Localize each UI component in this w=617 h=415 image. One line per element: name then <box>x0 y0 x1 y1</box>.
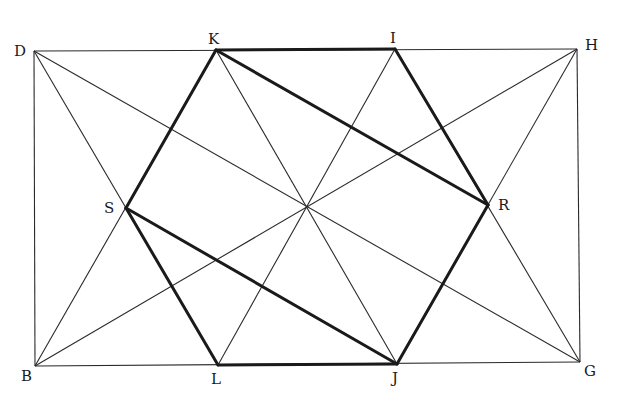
geometry-diagram: DKIHSRBLJG <box>0 0 617 415</box>
segment-SK <box>126 50 216 208</box>
label-L: L <box>211 370 221 388</box>
label-K: K <box>208 30 220 48</box>
segment-HG <box>577 49 580 362</box>
label-R: R <box>498 196 510 214</box>
segment-KR <box>216 50 488 205</box>
label-D: D <box>14 42 26 60</box>
label-I: I <box>390 29 396 47</box>
label-J: J <box>390 369 398 387</box>
segment-KI <box>216 49 395 50</box>
segment-IL <box>218 49 395 365</box>
label-H: H <box>585 36 598 54</box>
segment-IR <box>395 49 488 205</box>
label-G: G <box>584 362 596 380</box>
segment-BD <box>34 51 35 366</box>
label-S: S <box>104 199 114 217</box>
segment-JL <box>218 364 397 365</box>
label-B: B <box>21 367 32 385</box>
segment-SJ <box>126 208 397 364</box>
segment-RJ <box>397 205 488 364</box>
segment-LS <box>126 208 218 365</box>
